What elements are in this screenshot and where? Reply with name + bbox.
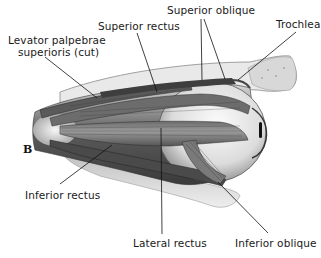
leader-inferior-oblique xyxy=(218,182,268,233)
label-superior-rectus: Superior rectus xyxy=(98,20,180,32)
eye-muscle-diagram: Superior oblique Superior rectus Trochle… xyxy=(0,0,321,258)
label-levator-line1: Levator palpebrae xyxy=(8,34,106,46)
label-inferior-rectus: Inferior rectus xyxy=(25,189,100,201)
label-lateral-rectus: Lateral rectus xyxy=(133,237,207,249)
pupil xyxy=(259,122,262,138)
label-inferior-oblique: Inferior oblique xyxy=(235,237,317,249)
label-levator-line2: superioris (cut) xyxy=(18,46,99,58)
label-trochlea: Trochlea xyxy=(276,18,320,30)
label-superior-oblique: Superior oblique xyxy=(167,4,255,16)
panel-letter: B xyxy=(23,143,32,156)
